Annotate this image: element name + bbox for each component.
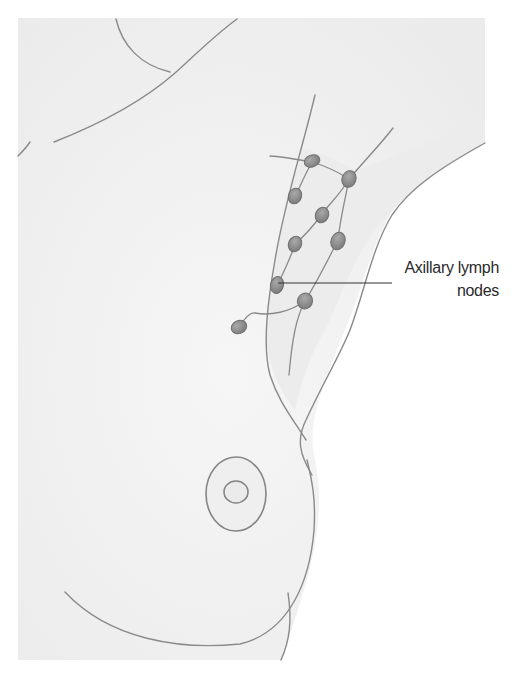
body-skin [18,18,485,660]
areola [206,457,266,531]
nipple [224,481,248,503]
breast-axilla-illustration [0,0,525,676]
annotation-label-line2: nodes [457,279,499,302]
anatomical-diagram: Axillary lymph nodes [0,0,525,676]
annotation-label-line1: Axillary lymph [405,256,500,279]
